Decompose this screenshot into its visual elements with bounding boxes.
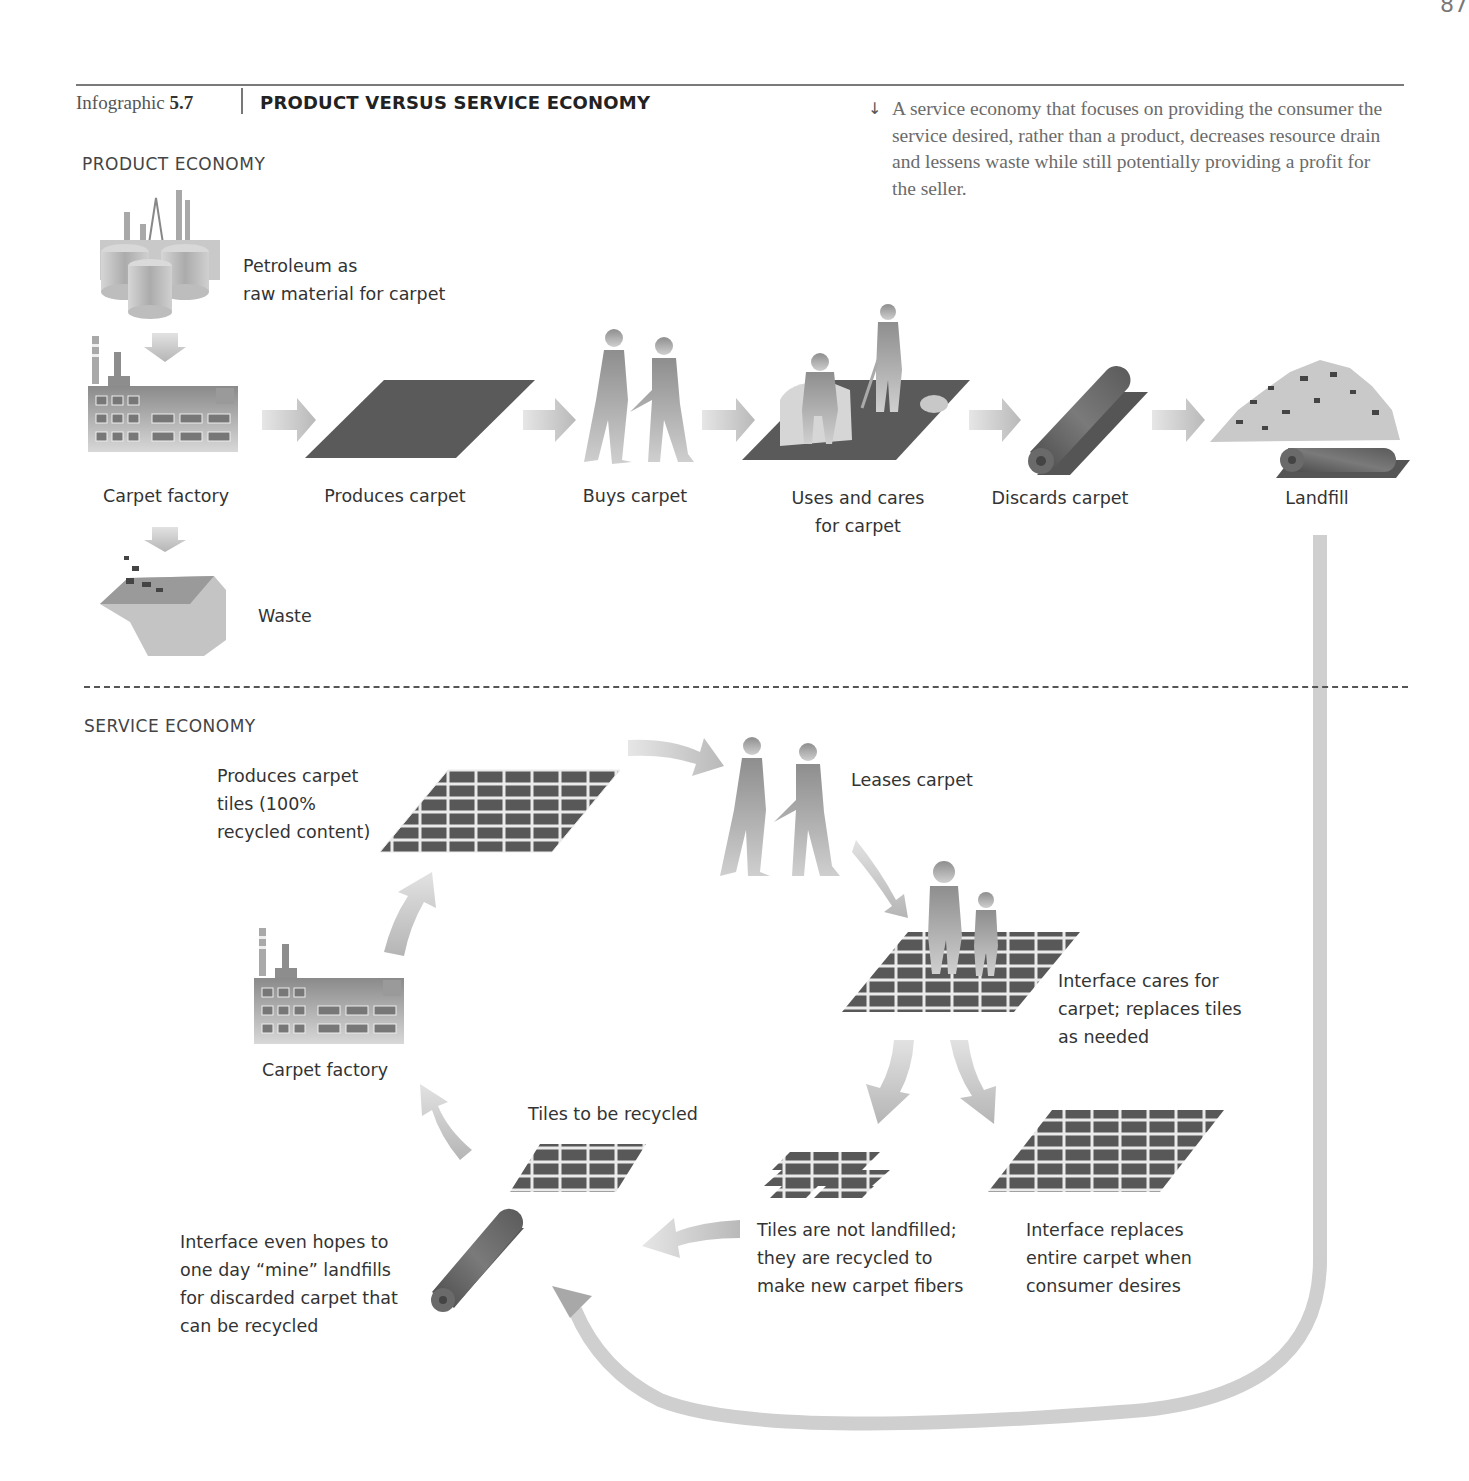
oil-refinery-icon	[100, 190, 220, 319]
curved-arrow-icon	[642, 1218, 740, 1258]
factory-icon	[254, 928, 404, 1044]
carpet-icon	[305, 380, 535, 458]
step-label-uses: Uses and cares for carpet	[778, 484, 938, 540]
curved-arrow-icon	[628, 738, 724, 776]
rolled-carpet-icon	[1028, 366, 1148, 475]
arrow-right-icon	[523, 398, 576, 442]
replaces-entire-label: Interface replaces entire carpet when co…	[1026, 1216, 1192, 1300]
step-label-landfill: Landfill	[1262, 484, 1372, 512]
curved-arrow-icon	[384, 872, 436, 956]
curved-arrow-icon	[950, 1040, 996, 1124]
carpet-tiles-icon	[510, 1144, 646, 1192]
curved-arrow-icon	[420, 1084, 472, 1160]
mine-landfills-label: Interface even hopes to one day “mine” l…	[180, 1228, 398, 1340]
step-label-buys: Buys carpet	[565, 482, 705, 510]
arrow-down-icon	[144, 527, 186, 552]
arrow-down-icon	[144, 333, 186, 362]
landfill-icon	[1210, 360, 1410, 478]
service-economy-title: SERVICE ECONOMY	[84, 716, 256, 736]
curved-arrow-icon	[852, 840, 908, 918]
factory-label: Carpet factory	[262, 1056, 388, 1084]
vacuum-carpet-icon	[742, 304, 970, 460]
handshake-people-icon	[720, 737, 840, 876]
cares-label: Interface cares for carpet; replaces til…	[1058, 967, 1242, 1051]
arrow-head-icon	[552, 1286, 592, 1318]
curved-arrow-icon	[866, 1040, 914, 1124]
handshake-people-icon	[584, 329, 694, 464]
not-landfilled-label: Tiles are not landfilled; they are recyc…	[757, 1216, 963, 1300]
waste-label: Waste	[258, 602, 312, 630]
tiles-recycled-label: Tiles to be recycled	[528, 1100, 698, 1128]
step-label-produces: Produces carpet	[305, 482, 485, 510]
raw-material-label: Petroleum as raw material for carpet	[243, 252, 445, 308]
partial-tiles-icon	[764, 1152, 890, 1198]
arrow-right-icon	[1152, 398, 1205, 442]
arrow-right-icon	[702, 398, 755, 442]
leases-label: Leases carpet	[851, 766, 973, 794]
arrow-right-icon	[969, 398, 1021, 442]
rolled-carpet-icon	[431, 1209, 524, 1312]
produces-tiles-label: Produces carpet tiles (100% recycled con…	[217, 762, 370, 846]
section-divider	[84, 686, 1408, 688]
carpet-tiles-icon	[988, 1110, 1224, 1192]
dumpster-icon	[100, 556, 226, 656]
arrow-right-icon	[262, 398, 316, 442]
product-economy-title: PRODUCT ECONOMY	[82, 154, 265, 174]
carpet-tiles-icon	[380, 770, 620, 852]
step-label-factory: Carpet factory	[86, 482, 246, 510]
step-label-discards: Discards carpet	[980, 484, 1140, 512]
